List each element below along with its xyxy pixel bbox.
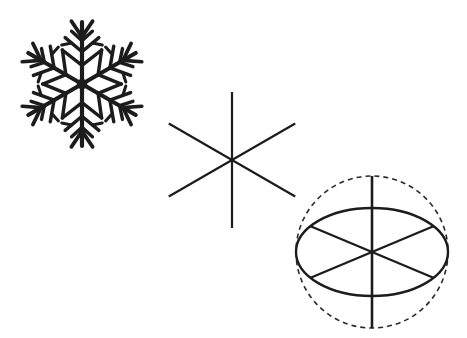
snowflake-tip-fork-branch [123,106,142,107]
snowflake-tip-fork-branch [22,106,41,107]
snowflake-center-hub [77,79,88,90]
geometry-figure-canvas [0,0,467,338]
snowflake-tip-fork-branch [22,60,41,61]
canvas-background [0,0,467,338]
snowflake-twig [92,123,102,125]
snowflake-twig [62,43,72,45]
snowflake-tip-fork-branch [123,60,142,61]
snowflake-twig [62,123,72,125]
snowflake-twig [92,43,102,45]
